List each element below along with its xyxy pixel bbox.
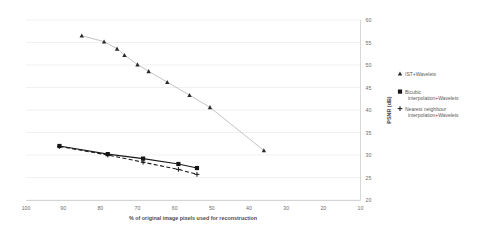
data-point-1-3 [176,162,180,166]
data-point-1-4 [195,166,199,170]
x-tick-10: 10 [358,205,364,211]
data-point-0-8 [208,105,212,109]
legend-label2-2: interpolation+Wavelets [408,112,459,118]
y-axis-title: PSNR (dB) [386,96,392,123]
legend-item-0[interactable]: IST+Wavelets [398,71,437,77]
data-point-0-6 [165,80,169,84]
legend-label-2: Nearest neighbour [405,106,446,112]
series-0 [80,34,267,153]
x-tick-90: 90 [60,205,66,211]
y-tick-20: 20 [366,197,372,203]
legend-marker-1 [398,90,402,94]
x-axis-title: % of original image pixels used for reco… [129,215,257,221]
x-tick-60: 60 [172,205,178,211]
data-point-2-4 [195,172,200,177]
x-tick-40: 40 [246,205,252,211]
legend-label-1: Bicubic [405,89,422,95]
legend-label2-1: interpolation+Wavelets [408,95,459,101]
legend-marker-2 [398,106,403,111]
legend: IST+WaveletsBicubicinterpolation+Wavelet… [398,71,459,119]
chart-container: 202530354045505560 100908070605040302010… [0,0,477,238]
x-tick-80: 80 [97,205,103,211]
x-tick-50: 50 [209,205,215,211]
x-axis-tick-labels: 100908070605040302010 [22,205,364,211]
y-tick-35: 35 [366,130,372,136]
y-axis-tick-labels: 202530354045505560 [366,17,372,203]
psnr-line-chart: 202530354045505560 100908070605040302010… [0,0,477,238]
y-tick-50: 50 [366,62,372,68]
legend-marker-0 [398,71,402,75]
y-tick-25: 25 [366,175,372,181]
data-point-0-7 [187,93,191,97]
series-layer [57,34,266,177]
x-tick-20: 20 [320,205,326,211]
legend-item-1[interactable]: Bicubicinterpolation+Wavelets [398,89,459,102]
y-tick-55: 55 [366,40,372,46]
data-point-2-3 [176,167,181,172]
data-point-0-4 [135,62,139,66]
series-1 [57,144,199,170]
y-tick-45: 45 [366,85,372,91]
series-line-0 [82,36,264,151]
series-line-2 [59,146,197,174]
x-tick-100: 100 [22,205,31,211]
x-tick-70: 70 [135,205,141,211]
data-point-0-2 [115,47,119,51]
legend-item-2[interactable]: Nearest neighbourinterpolation+Wavelets [398,106,459,119]
y-tick-30: 30 [366,152,372,158]
y-tick-60: 60 [366,17,372,23]
data-point-0-0 [80,34,84,38]
legend-label-0: IST+Wavelets [405,71,437,77]
data-point-0-5 [146,69,150,73]
y-tick-40: 40 [366,107,372,113]
x-tick-30: 30 [283,205,289,211]
